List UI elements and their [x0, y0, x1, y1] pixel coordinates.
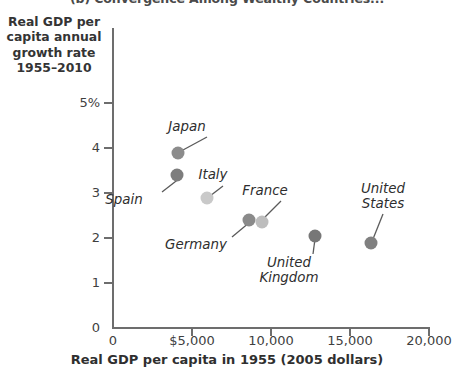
x-axis-tick-label: 0	[109, 333, 117, 348]
leader-line	[183, 137, 207, 150]
data-point-united-states[interactable]	[364, 236, 377, 249]
y-axis-tick-label: 1	[40, 275, 100, 290]
data-point-united-kingdom[interactable]	[309, 229, 322, 242]
y-axis-tick-label: 3	[40, 185, 100, 200]
x-axis-title: Real GDP per capita in 1955 (2005 dollar…	[0, 352, 454, 367]
data-point-spain[interactable]	[170, 169, 183, 182]
y-axis-tick-label: 5%	[40, 95, 100, 110]
y-axis-tick	[104, 237, 113, 239]
data-point-france[interactable]	[255, 216, 268, 229]
leader-line	[265, 201, 281, 217]
y-axis-tick-label: 0	[40, 320, 100, 335]
x-axis-tick-label: 15,000	[327, 333, 373, 348]
chart-figure: (b) Convergence Among Wealthy Countries.…	[0, 0, 454, 375]
y-axis-tick	[104, 147, 113, 149]
point-label-italy: Italy	[198, 168, 227, 183]
leader-line	[373, 214, 383, 239]
y-axis-tick	[104, 102, 113, 104]
x-axis-tick-label: 10,000	[248, 333, 294, 348]
point-label-spain: Spain	[105, 193, 142, 208]
x-axis-tick-label: $5,000	[169, 333, 215, 348]
point-label-united-kingdom: United Kingdom	[259, 256, 318, 285]
data-point-italy[interactable]	[201, 191, 214, 204]
y-axis-tick-label: 4	[40, 140, 100, 155]
point-label-france: France	[242, 184, 288, 199]
x-axis-tick-label: 20,000	[406, 333, 452, 348]
data-point-germany[interactable]	[242, 214, 255, 227]
point-label-germany: Germany	[165, 238, 227, 253]
y-axis-tick-label: 2	[40, 230, 100, 245]
data-point-japan[interactable]	[171, 146, 184, 159]
point-label-japan: Japan	[168, 120, 205, 135]
point-label-united-states: United States	[361, 182, 405, 211]
y-axis-tick	[104, 282, 113, 284]
